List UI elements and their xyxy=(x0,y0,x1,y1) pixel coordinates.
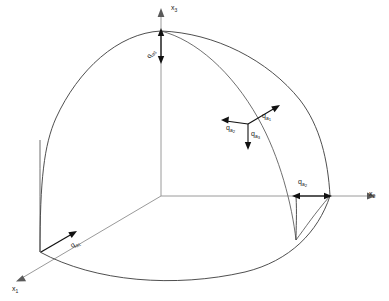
x3-axis-label: x3 xyxy=(171,4,177,13)
qa3-measure-group xyxy=(158,28,164,64)
octant-surface-group xyxy=(40,31,330,281)
x3-axis-arrowhead xyxy=(158,8,165,17)
qa2-measure-group xyxy=(292,193,332,199)
triad-qa3-arrowhead xyxy=(245,142,251,150)
triad-qa2-label: qa2 xyxy=(226,124,235,134)
qa2-component-label: qa2 xyxy=(298,178,307,188)
triad-qa2-arrowhead xyxy=(221,117,229,124)
inner-meridian-arc xyxy=(161,31,296,240)
outer-meridian-x2-x3-arc xyxy=(161,31,330,196)
figure-canvas: x3 x2 x1 qa3 qa2 qa1 qa1 qa2 qa3 xyxy=(0,0,389,301)
triad-qa3-label: qa3 xyxy=(251,130,260,140)
diagram-svg xyxy=(0,0,389,301)
x2-axis-label: x2 xyxy=(369,190,375,199)
x1-axis-line xyxy=(22,196,161,278)
outer-meridian-x1-x3-arc xyxy=(40,31,161,252)
qa3-measure-arrow-down xyxy=(158,56,164,64)
x1-axis-label: x1 xyxy=(12,285,18,294)
lower-right-boundary-arc xyxy=(296,196,330,240)
triad-qa1-label: qa1 xyxy=(262,112,271,122)
equator-front-arc xyxy=(40,196,330,281)
triad-qa1-arrowhead xyxy=(271,105,280,112)
qa1-measure-segment xyxy=(41,234,72,252)
